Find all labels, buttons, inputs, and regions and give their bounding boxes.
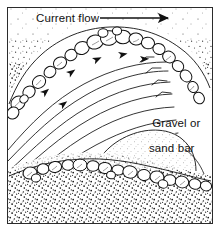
gravel-sand-bar-label: Gravel or sand bar [139, 104, 200, 179]
gravel-sand-bar-label-line-1: Gravel or [152, 117, 200, 129]
gravel-sand-bar-label-line-2: sand bar [149, 142, 200, 155]
figure-root: Current flow Gravel or sand bar [0, 0, 222, 233]
current-flow-label: Current flow [36, 12, 99, 25]
